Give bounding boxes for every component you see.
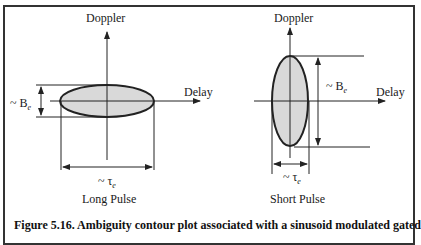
short-duration-label: ~ τe — [283, 170, 301, 186]
long-bandwidth-label: ~ Be — [10, 96, 32, 112]
short-pulse-panel: Doppler Delay ~ Be ~ τe Short Pulse — [254, 11, 405, 206]
short-bandwidth-label: ~ Be — [326, 79, 348, 95]
short-doppler-label: Doppler — [274, 11, 313, 25]
figure-caption: Figure 5.16. Ambiguity contour plot asso… — [14, 218, 421, 233]
long-doppler-label: Doppler — [86, 11, 125, 25]
long-duration-label: ~ τe — [98, 174, 116, 190]
long-pulse-panel: Doppler Delay ~ Be ~ τe Long Pulse — [10, 11, 213, 206]
long-delay-label: Delay — [184, 85, 213, 99]
long-pulse-title: Long Pulse — [82, 192, 136, 206]
short-pulse-title: Short Pulse — [270, 192, 325, 206]
short-delay-label: Delay — [376, 85, 405, 99]
